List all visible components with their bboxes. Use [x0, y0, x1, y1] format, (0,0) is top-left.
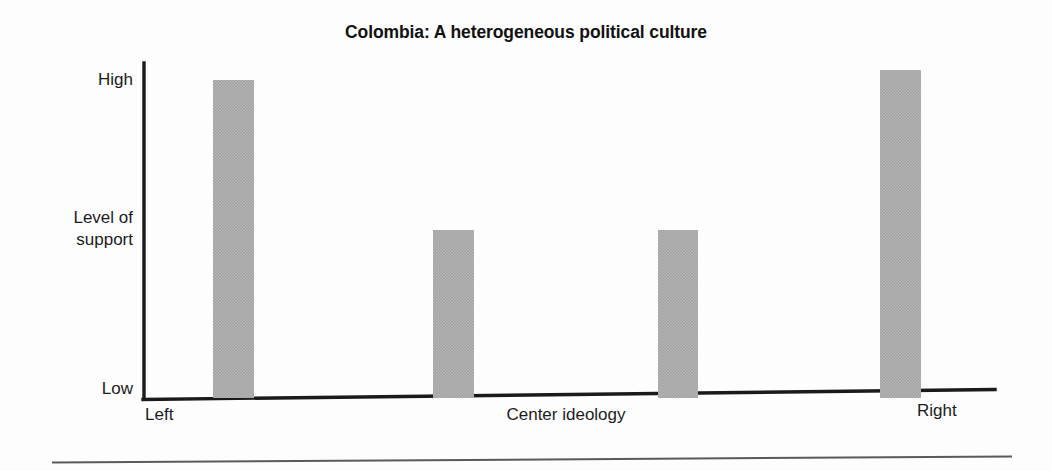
y-axis-label-low: Low [102, 378, 133, 400]
bar-center-left [433, 230, 474, 398]
x-axis-line [143, 390, 995, 400]
x-axis-title-center: Center ideology [0, 405, 1052, 425]
y-axis-title-line-1: Level of [73, 207, 133, 229]
x-axis-label-right: Right [917, 401, 957, 421]
y-axis-title: Level of support [73, 207, 133, 251]
chart-figure: Colombia: A heterogeneous political cult… [0, 0, 1052, 471]
y-axis-label-high: High [98, 69, 133, 91]
plot-area: High Level of support Low Left Center id… [0, 0, 1052, 471]
y-axis-title-line-2: support [73, 229, 133, 251]
bar-left [213, 80, 254, 398]
bar-right [880, 70, 921, 398]
bar-center-right [658, 230, 698, 398]
